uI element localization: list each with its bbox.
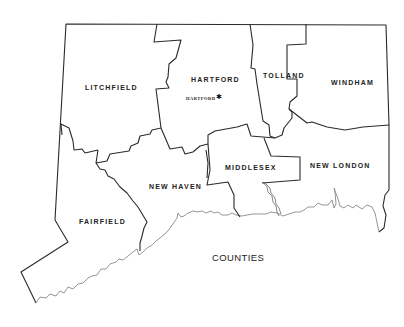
capital-label-hartford: HARTFORD: [186, 96, 216, 101]
county-label-new-london: NEW LONDON: [310, 162, 371, 169]
boundary-middlesex-newlondon: [262, 138, 300, 183]
boundary-hartford-tolland: [250, 24, 275, 138]
county-label-litchfield: LITCHFIELD: [85, 84, 138, 91]
county-label-new-haven: NEW HAVEN: [149, 183, 202, 190]
boundary-hartford-newhaven: [161, 128, 208, 154]
coastline: [36, 188, 379, 303]
boundary-litchfield-fairfield: [61, 124, 98, 153]
county-label-fairfield: FAIRFIELD: [79, 218, 126, 225]
county-label-windham: WINDHAM: [331, 79, 374, 86]
boundary-fairfield-newhaven: [96, 163, 147, 251]
boundary-middlesex-newhaven: [207, 144, 240, 217]
boundary-tolland-windham: [287, 24, 306, 109]
map-title: COUNTIES: [212, 252, 264, 263]
boundary-litchfield-hartford: [154, 24, 181, 128]
county-label-middlesex: MIDDLESEX: [225, 164, 277, 171]
boundary-windham-newlondon: [289, 109, 389, 130]
capital-star-icon: ✱: [216, 94, 222, 101]
boundary-litchfield-south: [96, 128, 161, 163]
county-label-tolland: TOLLAND: [263, 72, 305, 79]
county-label-hartford: HARTFORD: [191, 76, 240, 83]
boundary-middlesex-left: [206, 150, 208, 178]
boundary-tolland-newlondon: [275, 109, 292, 138]
connecticut-river: [263, 182, 279, 216]
